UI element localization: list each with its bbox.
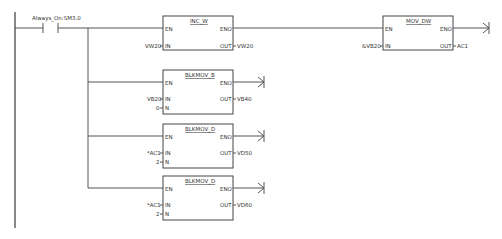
block-title: BLKMOV_B (185, 72, 215, 79)
pin-in: IN (165, 43, 171, 49)
pin-in: IN (165, 202, 171, 208)
pin-n: N (165, 159, 169, 165)
block-title: BLKMOV_D (185, 178, 215, 185)
pin-in: IN (165, 150, 171, 156)
pin-en: EN (165, 186, 173, 192)
pin-en: EN (165, 26, 173, 32)
output-out-operand[interactable]: VW20 (237, 43, 254, 49)
pin-eno: ENO (220, 186, 233, 192)
pin-en: EN (165, 80, 173, 86)
pin-eno: ENO (220, 134, 233, 140)
input-n-operand[interactable]: 2 (156, 211, 160, 217)
pin-eno: ENO (440, 26, 453, 32)
pin-en: EN (165, 134, 173, 140)
pin-eno: ENO (220, 80, 233, 86)
pin-out: OUT (220, 150, 232, 156)
input-in-operand[interactable]: &VB20 (362, 43, 381, 49)
output-out-operand[interactable]: VD50 (237, 150, 252, 156)
block-mov-dw[interactable]: MOV_DW EN IN ENO OUT &VB20 AC1 (362, 16, 468, 50)
contact-always-on[interactable]: Always_On:SM3.0 (32, 15, 81, 33)
input-n-operand[interactable]: 2 (156, 159, 160, 165)
block-title: INC_W (190, 18, 208, 25)
pin-en: EN (385, 26, 393, 32)
input-in-operand[interactable]: VW20 (145, 43, 162, 49)
pin-out: OUT (440, 43, 452, 49)
input-n-operand[interactable]: 0 (156, 105, 160, 111)
block-title: BLKMOV_D (185, 126, 215, 133)
contact-label: Always_On:SM3.0 (32, 15, 81, 22)
output-out-operand[interactable]: VD60 (237, 202, 252, 208)
pin-out: OUT (220, 43, 232, 49)
block-blkmov-d-2[interactable]: BLKMOV_D EN IN N ENO OUT *AC1 2 VD60 (147, 176, 252, 220)
output-out-operand[interactable]: VB40 (237, 96, 252, 102)
block-blkmov-d-1[interactable]: BLKMOV_D EN IN N ENO OUT *AC1 2 VD50 (147, 124, 252, 168)
pin-in: IN (385, 43, 391, 49)
input-in-operand[interactable]: *AC1 (147, 202, 161, 208)
block-inc-w[interactable]: INC_W EN IN ENO OUT VW20 VW20 (145, 16, 254, 50)
pin-eno: ENO (220, 26, 233, 32)
block-title: MOV_DW (406, 18, 432, 25)
pin-out: OUT (220, 96, 232, 102)
input-in-operand[interactable]: *AC1 (147, 150, 161, 156)
ladder-diagram: Always_On:SM3.0 INC_W EN IN ENO OUT VW20… (0, 0, 502, 239)
pin-in: IN (165, 96, 171, 102)
block-blkmov-b[interactable]: BLKMOV_B EN IN N ENO OUT VB20 0 VB40 (147, 70, 252, 114)
output-out-operand[interactable]: AC1 (457, 43, 468, 49)
pin-out: OUT (220, 202, 232, 208)
input-in-operand[interactable]: VB20 (147, 96, 162, 102)
pin-n: N (165, 105, 169, 111)
pin-n: N (165, 211, 169, 217)
